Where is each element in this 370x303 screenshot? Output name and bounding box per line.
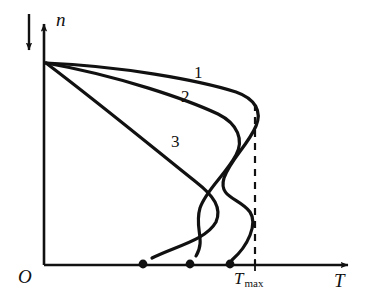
axis-dot-curve-1 — [226, 260, 235, 269]
curve-label-2: 2 — [181, 88, 190, 105]
curve-3 — [46, 63, 218, 258]
axis-dot-curve-3 — [139, 260, 148, 269]
curve-1 — [46, 63, 258, 260]
tmax-symbol: T — [234, 269, 243, 288]
diagram-figure: n T O Tmax 1 2 3 — [0, 0, 370, 303]
y-axis-label: n — [56, 10, 66, 29]
curve-label-3: 3 — [171, 133, 180, 150]
plot-canvas — [0, 0, 370, 303]
x-axis-label: T — [334, 271, 345, 290]
tmax-subscript: max — [244, 277, 263, 289]
axis-dot-curve-2 — [186, 260, 195, 269]
origin-label: O — [18, 267, 32, 286]
curve-label-1: 1 — [194, 64, 203, 81]
tmax-label: Tmax — [234, 270, 262, 287]
